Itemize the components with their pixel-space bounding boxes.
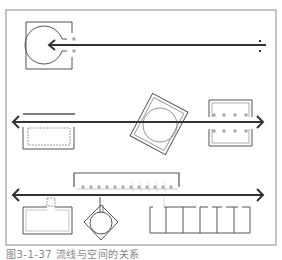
colonnade-top [209, 100, 252, 117]
side-space-inner [28, 128, 70, 145]
cell-row [150, 207, 250, 233]
rotated-square-with-circle [130, 93, 188, 154]
inner-circle [90, 212, 112, 234]
flow-space-diagram [0, 0, 282, 260]
rect-space [23, 207, 72, 234]
inner-circle [143, 108, 177, 142]
rect-space-inner [26, 210, 69, 231]
colonnade-bottom-inner [212, 129, 249, 143]
end-dot [259, 50, 261, 52]
entry-mark [73, 50, 75, 52]
colonnade-top-inner [212, 103, 249, 117]
panel-top [25, 22, 266, 69]
corridor-with-dots [74, 173, 179, 187]
entry-box [47, 198, 55, 206]
entry-mark [73, 38, 75, 40]
panel-bottom [13, 173, 263, 240]
corridor-dots [82, 186, 172, 188]
side-space-rect [23, 127, 74, 149]
end-dot [259, 40, 261, 42]
figure-caption: 图3-1-37 流线与空间的关系 [6, 249, 140, 260]
diamond-with-circle [84, 205, 118, 240]
colonnade-bottom [209, 129, 252, 146]
panel-middle [13, 93, 263, 154]
